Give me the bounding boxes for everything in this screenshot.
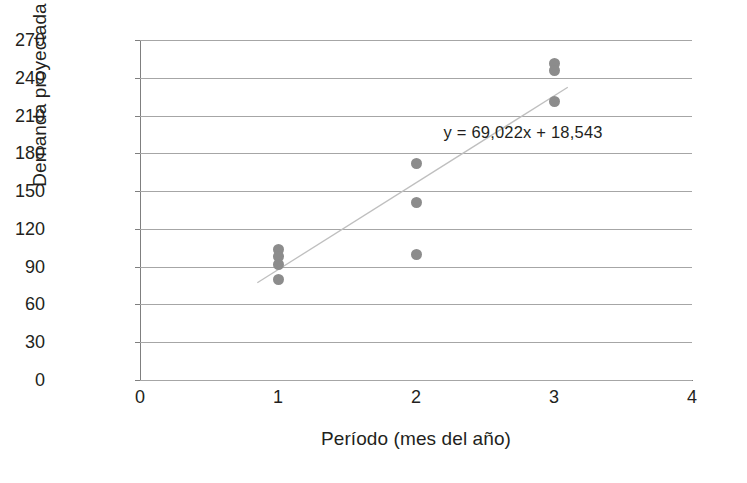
y-tick-label: 150 (0, 182, 45, 200)
data-point (411, 197, 422, 208)
x-tick-label: 1 (258, 388, 298, 406)
y-tick-label: 120 (0, 220, 45, 238)
data-point (273, 274, 284, 285)
x-axis-title: Período (mes del año) (140, 428, 692, 450)
y-tick-label: 240 (0, 69, 45, 87)
y-tick-label: 60 (0, 295, 45, 313)
data-point (549, 96, 560, 107)
y-tick-label: 270 (0, 31, 45, 49)
x-tick-label: 4 (672, 388, 712, 406)
plot-area (140, 40, 692, 380)
trendline (140, 40, 692, 380)
x-tick-label: 2 (396, 388, 436, 406)
x-tick-label: 3 (534, 388, 574, 406)
y-tick-label: 30 (0, 333, 45, 351)
data-point (549, 65, 560, 76)
data-point (411, 249, 422, 260)
scatter-chart: Demanda proyectada Período (mes del año)… (0, 0, 747, 483)
data-point (273, 259, 284, 270)
y-tick-label: 0 (0, 371, 45, 389)
y-tick-label: 180 (0, 144, 45, 162)
trendline-equation-label: y = 69,022x + 18,543 (444, 123, 603, 142)
y-tick-label: 210 (0, 107, 45, 125)
x-tick-label: 0 (120, 388, 160, 406)
gridline (140, 380, 692, 381)
data-point (411, 158, 422, 169)
y-tick-label: 90 (0, 258, 45, 276)
